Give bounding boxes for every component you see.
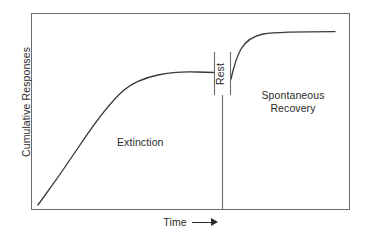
annotation-recovery-line1: Spontaneous: [262, 89, 325, 101]
right-arrow-icon: [192, 218, 218, 227]
y-axis-label: Cumulative Responses: [20, 22, 32, 182]
annotation-spontaneous-recovery: Spontaneous Recovery: [251, 89, 335, 115]
x-axis-label: Time: [163, 216, 186, 228]
annotation-rest-text: Rest: [214, 55, 226, 93]
chart-figure: Cumulative Responses Extinction Spontane…: [0, 0, 368, 239]
annotation-rest: Rest: [210, 17, 222, 55]
annotation-extinction: Extinction: [117, 136, 164, 148]
x-axis-label-group: Time: [31, 216, 350, 228]
annotation-recovery-line2: Recovery: [270, 102, 315, 114]
